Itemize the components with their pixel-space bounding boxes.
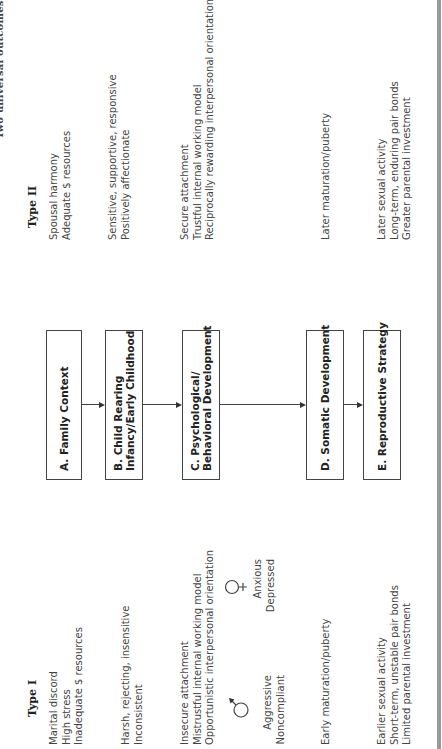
- stage-box-b-child-rearing: B. Child Rearing Infancy/Early Childhood: [105, 330, 143, 480]
- figure-title-cropped: Two universal outcomes: [0, 0, 6, 139]
- text-line: Inconsistent: [133, 606, 146, 745]
- arrow-d-to-e: [344, 404, 357, 405]
- type-i-family-context: Marital discord High stress Inadequate $…: [48, 627, 86, 745]
- stage-box-d-somatic: D. Somatic Development: [306, 330, 344, 480]
- type-ii-family-context: Spousal harmony Adequate $ resources: [48, 131, 73, 240]
- text-line: Inadequate $ resources: [73, 627, 86, 745]
- text-line: Positively affectionate: [120, 74, 133, 240]
- text-line: Sensitive, supportive, responsive: [107, 74, 120, 240]
- text-line: Long-term, enduring pair bonds: [389, 81, 402, 240]
- stage-label: D. Somatic Development: [319, 331, 332, 471]
- text-line: Marital discord: [48, 627, 61, 745]
- stage-box-e-reproductive: E. Reproductive Strategy: [363, 330, 401, 480]
- text-line: Greater parental investment: [401, 81, 414, 240]
- type-ii-reproductive: Later sexual activity Long-term, endurin…: [376, 81, 414, 240]
- text-line: Mistrustful internal working model: [192, 550, 205, 745]
- type-i-header: Type I: [26, 680, 39, 717]
- page-edge-rule: [437, 0, 441, 749]
- stage-box-a-family-context: A. Family Context: [46, 330, 82, 480]
- text-line: Early maturation/puberty: [320, 619, 333, 745]
- text-line: Later sexual activity: [376, 81, 389, 240]
- text-line: Earlier sexual activity: [376, 585, 389, 745]
- text-line: Secure attachment: [179, 0, 192, 240]
- text-line: Short-term, unstable pair bonds: [389, 585, 402, 745]
- rotated-figure: Two universal outcomes Type I Marital di…: [0, 0, 442, 749]
- female-traits: Anxious Depressed: [252, 559, 277, 639]
- type-ii-somatic: Later maturation/puberty: [320, 113, 333, 240]
- type-ii-psychological: Secure attachment Trustful internal work…: [179, 0, 217, 240]
- type-i-somatic: Early maturation/puberty: [320, 619, 333, 745]
- text-line: Insecure attachment: [179, 550, 192, 745]
- stage-box-c-psychological: C. Psychological/ Behavioral Development: [182, 330, 220, 480]
- stage-label: C. Psychological/: [189, 331, 202, 471]
- text-line: Spousal harmony: [48, 131, 61, 240]
- female-symbol-icon: [224, 577, 250, 597]
- male-symbol-icon: [226, 695, 250, 719]
- text-line: Noncompliant: [275, 675, 288, 745]
- text-line: Anxious: [252, 559, 265, 639]
- type-i-psychological: Insecure attachment Mistrustful internal…: [179, 550, 217, 745]
- arrow-a-to-b: [82, 404, 99, 405]
- text-line: Reciprocally rewarding interpersonal ori…: [204, 0, 217, 240]
- stage-label: A. Family Context: [58, 331, 71, 471]
- text-line: Later maturation/puberty: [320, 113, 333, 240]
- male-traits: Aggressive Noncompliant: [262, 675, 287, 745]
- text-line: Trustful internal working model: [192, 0, 205, 240]
- type-ii-child-rearing: Sensitive, supportive, responsive Positi…: [107, 74, 132, 240]
- text-line: Adequate $ resources: [61, 131, 74, 240]
- type-ii-header: Type II: [26, 186, 39, 228]
- text-line: Opportunistic interpersonal orientation: [204, 550, 217, 745]
- type-i-child-rearing: Harsh, rejecting, insensitive Inconsiste…: [120, 606, 145, 745]
- stage-label: E. Reproductive Strategy: [376, 331, 389, 471]
- text-line: Depressed: [265, 559, 278, 639]
- text-line: Limited parental investment: [401, 585, 414, 745]
- type-i-reproductive: Earlier sexual activity Short-term, unst…: [376, 585, 414, 745]
- text-line: High stress: [61, 627, 74, 745]
- arrow-b-to-c: [143, 404, 176, 405]
- arrow-c-to-d: [220, 404, 300, 405]
- stage-label: Behavioral Development: [201, 331, 214, 471]
- text-line: Harsh, rejecting, insensitive: [120, 606, 133, 745]
- text-line: Aggressive: [262, 675, 275, 745]
- stage-label: Infancy/Early Childhood: [124, 331, 137, 471]
- stage-label: B. Child Rearing: [112, 331, 125, 471]
